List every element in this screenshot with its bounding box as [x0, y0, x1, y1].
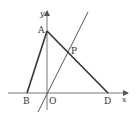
segment-ad: [47, 31, 108, 93]
point-b-label: B: [23, 96, 30, 106]
segment-ab: [27, 31, 47, 93]
x-axis-label: x: [122, 95, 127, 104]
origin-label: O: [49, 96, 56, 106]
point-p-label: P: [71, 46, 77, 56]
coordinate-diagram: y x A B O D P: [0, 0, 136, 115]
y-axis-label: y: [39, 9, 45, 18]
line-through-origin: [38, 12, 88, 112]
point-a-label: A: [37, 25, 45, 35]
point-d-label: D: [104, 96, 111, 106]
